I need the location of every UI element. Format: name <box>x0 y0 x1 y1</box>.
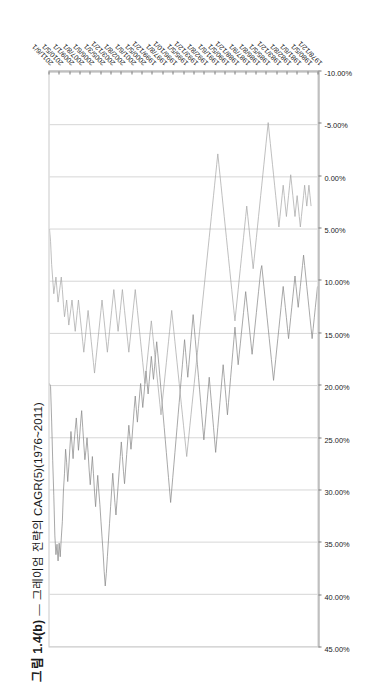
date-axis-tick <box>234 71 235 74</box>
figure-caption: 그레이엄 전략의 CAGR(5)(1976~2011) <box>31 402 43 600</box>
date-axis-tick <box>48 71 49 74</box>
figure-landscape-canvas: 그림 1.4(b)—그레이엄 전략의 CAGR(5)(1976~2011) 그레… <box>0 0 375 699</box>
date-axis-tick <box>110 71 111 74</box>
value-axis-label: 25.00% <box>324 435 349 444</box>
date-axis-tick <box>79 71 80 74</box>
value-axis-tick <box>318 646 321 647</box>
value-axis-label: 40.00% <box>324 592 349 601</box>
date-axis-tick <box>131 71 132 74</box>
date-axis-tick <box>89 71 90 74</box>
title-dash: — <box>31 604 43 616</box>
figure-number: 그림 1.4(b) <box>30 619 44 681</box>
date-axis-tick <box>255 71 256 74</box>
date-axis-tick <box>58 71 59 74</box>
value-axis-tick <box>318 437 321 438</box>
value-axis-label: -5.00% <box>324 120 347 129</box>
value-axis-label: 35.00% <box>324 539 349 548</box>
value-axis-tick <box>318 489 321 490</box>
figure-title: 그림 1.4(b)—그레이엄 전략의 CAGR(5)(1976~2011) <box>26 402 45 681</box>
date-axis-tick <box>245 71 246 74</box>
value-axis-label: 10.00% <box>324 277 349 286</box>
value-axis-label: 5.00% <box>324 225 345 234</box>
date-axis: 2011/6/12010/5/12009/1/12007/8/12006/6/1… <box>48 70 319 71</box>
date-axis-tick <box>276 71 277 74</box>
date-axis-tick <box>214 71 215 74</box>
date-axis-tick <box>100 71 101 74</box>
date-axis-tick <box>120 71 121 74</box>
series-line-sp500 <box>49 122 311 456</box>
date-axis-tick <box>296 71 297 74</box>
date-axis-tick <box>69 71 70 74</box>
value-axis-tick <box>318 541 321 542</box>
value-axis-label: 45.00% <box>324 644 349 653</box>
date-axis-tick <box>183 71 184 74</box>
value-axis-label: 15.00% <box>324 330 349 339</box>
date-axis-tick <box>151 71 152 74</box>
date-axis-tick <box>286 71 287 74</box>
value-axis-tick <box>318 122 321 123</box>
value-axis-tick <box>318 384 321 385</box>
date-axis-tick <box>224 71 225 74</box>
date-axis-tick <box>162 71 163 74</box>
rotated-page-wrapper: 그림 1.4(b)—그레이엄 전략의 CAGR(5)(1976~2011) 그레… <box>0 0 375 699</box>
date-axis-tick <box>141 71 142 74</box>
value-axis-tick <box>318 175 321 176</box>
date-axis-tick <box>317 71 318 74</box>
date-axis-tick <box>172 71 173 74</box>
chart-plot-area <box>48 71 318 647</box>
value-axis-label: 0.00% <box>324 173 345 182</box>
value-axis-tick <box>318 332 321 333</box>
value-axis-tick <box>318 594 321 595</box>
value-axis-label: -10.00% <box>324 68 352 77</box>
chart-svg <box>49 72 317 646</box>
value-axis-tick <box>318 227 321 228</box>
date-axis-tick <box>307 71 308 74</box>
date-axis-tick <box>265 71 266 74</box>
value-axis: 45.00%40.00%35.00%30.00%25.00%20.00%15.0… <box>318 71 319 647</box>
value-axis-tick <box>318 279 321 280</box>
value-axis-label: 30.00% <box>324 487 349 496</box>
date-axis-tick <box>203 71 204 74</box>
value-axis-label: 20.00% <box>324 382 349 391</box>
date-axis-tick <box>193 71 194 74</box>
